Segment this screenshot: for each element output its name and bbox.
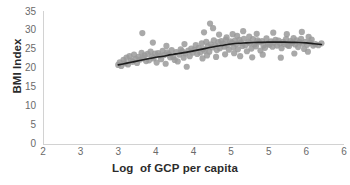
scatter-point (205, 43, 211, 49)
y-tick-label: 20 (10, 63, 36, 73)
scatter-point (199, 40, 205, 46)
plot-area (0, 0, 350, 185)
scatter-point (213, 54, 219, 60)
scatter-point (204, 52, 210, 58)
scatter-point (227, 38, 233, 44)
scatter-point (284, 31, 290, 37)
scatter-point (185, 47, 191, 53)
scatter-point (221, 44, 227, 50)
y-tick-label: 35 (10, 7, 36, 17)
scatter-point (184, 64, 190, 70)
chart-container: BMI Index 05101520253035 233445566 Log o… (0, 0, 350, 185)
scatter-point (275, 38, 281, 44)
scatter-point (254, 31, 260, 37)
scatter-point (250, 36, 256, 42)
scatter-point (269, 44, 275, 50)
scatter-point (173, 49, 179, 55)
scatter-point (155, 50, 161, 56)
scatter-point (237, 53, 243, 59)
scatter-point (283, 36, 289, 42)
scatter-point (216, 31, 222, 37)
scatter-point (223, 36, 229, 42)
scatter-point (265, 41, 271, 47)
scatter-point (287, 38, 293, 44)
scatter-point (310, 42, 316, 48)
y-axis-line (43, 11, 44, 145)
scatter-point (245, 39, 251, 45)
scatter-point (278, 45, 284, 51)
scatter-point (278, 55, 284, 61)
scatter-point (260, 42, 266, 48)
scatter-point (179, 48, 185, 54)
scatter-point (290, 35, 296, 41)
trend-line (118, 42, 321, 65)
scatter-point (206, 49, 212, 55)
scatter-point (129, 59, 135, 65)
scatter-point (201, 29, 207, 35)
scatter-point (132, 56, 138, 62)
scatter-point (254, 37, 260, 43)
scatter-point (146, 57, 152, 63)
scatter-point (145, 51, 151, 57)
scatter-point (137, 56, 143, 62)
scatter-point (229, 40, 235, 46)
scatter-point (128, 58, 134, 64)
scatter-point (318, 40, 324, 46)
scatter-point (141, 52, 147, 58)
scatter-point (233, 41, 239, 47)
scatter-point (176, 52, 182, 58)
scatter-point (259, 38, 265, 44)
scatter-point (266, 42, 272, 48)
scatter-point (211, 37, 217, 43)
x-tick-label: 3 (108, 147, 128, 157)
scatter-point (239, 43, 245, 49)
scatter-point (122, 60, 128, 66)
scatter-point (117, 59, 123, 65)
scatter-point (286, 43, 292, 49)
scatter-point (163, 43, 169, 49)
scatter-point (236, 37, 242, 43)
scatter-point (209, 44, 215, 50)
scatter-point (123, 55, 129, 61)
y-tick-label: 30 (10, 25, 36, 35)
scatter-point (135, 54, 141, 60)
scatter-point (257, 47, 263, 53)
scatter-point (230, 44, 236, 50)
x-tick-label: 5 (221, 147, 241, 157)
scatter-point (303, 39, 309, 45)
scatter-point (138, 50, 144, 56)
x-tick-label: 4 (184, 147, 204, 157)
scatter-point (181, 55, 187, 61)
scatter-point (151, 55, 157, 61)
scatter-point (172, 57, 178, 63)
scatter-point (167, 54, 173, 60)
scatter-point (164, 49, 170, 55)
scatter-point (169, 47, 175, 53)
scatter-point (312, 41, 318, 47)
scatter-point (300, 41, 306, 47)
scatter-point (284, 42, 290, 48)
y-tick-label: 10 (10, 101, 36, 111)
scatter-point (181, 41, 187, 47)
scatter-point (217, 45, 223, 51)
scatter-point (178, 46, 184, 52)
scatter-point (224, 34, 230, 40)
scatter-point (152, 50, 158, 56)
x-axis-title: Log of GCP per capita (0, 162, 350, 174)
scatter-point (238, 39, 244, 45)
scatter-point (234, 33, 240, 39)
scatter-point (256, 39, 262, 45)
scatter-point (193, 42, 199, 48)
scatter-point (143, 58, 149, 64)
scatter-point (126, 53, 132, 59)
scatter-point (226, 47, 232, 53)
scatter-points (115, 21, 324, 70)
scatter-point (215, 39, 221, 45)
scatter-point (200, 46, 206, 52)
scatter-point (202, 48, 208, 54)
scatter-point (307, 39, 313, 45)
scatter-point (166, 51, 172, 57)
scatter-point (247, 40, 253, 46)
scatter-point (150, 39, 156, 45)
scatter-point (190, 50, 196, 56)
